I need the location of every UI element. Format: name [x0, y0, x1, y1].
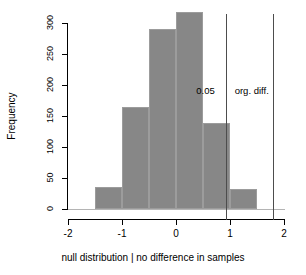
y-tick-label-wrap: 50 [40, 173, 60, 182]
y-tick-label-wrap: 100 [40, 142, 60, 151]
y-axis-line [67, 23, 68, 210]
x-tick-label: -2 [56, 228, 80, 239]
histogram-plot: 050100150200250300 -2-1012 0.05org. diff… [0, 0, 306, 275]
histogram-bar [122, 107, 149, 209]
y-tick-mark [62, 116, 67, 117]
y-tick-label-wrap: 0 [40, 204, 60, 213]
y-tick-label: 0 [46, 199, 55, 219]
x-tick-mark [176, 219, 177, 225]
observed-difference-line [273, 14, 274, 220]
x-tick-mark [68, 219, 69, 225]
y-tick-mark [62, 178, 67, 179]
y-tick-label: 100 [46, 137, 55, 157]
y-tick-label: 300 [46, 13, 55, 33]
y-axis-title-wrap: Frequency [5, 52, 19, 182]
y-tick-label: 50 [46, 168, 55, 188]
y-tick-label-wrap: 300 [40, 18, 60, 27]
y-tick-mark [62, 54, 67, 55]
x-tick-label: 0 [164, 228, 188, 239]
y-tick-mark [62, 85, 67, 86]
y-tick-mark [62, 23, 67, 24]
y-tick-mark [62, 209, 67, 210]
x-tick-label: -1 [110, 228, 134, 239]
x-tick-mark [122, 219, 123, 225]
y-tick-label-wrap: 200 [40, 80, 60, 89]
y-tick-label: 250 [46, 44, 55, 64]
y-tick-label: 150 [46, 106, 55, 126]
x-tick-label: 1 [218, 228, 242, 239]
significance-threshold-line [226, 14, 227, 220]
x-tick-label: 2 [272, 228, 296, 239]
histogram-bar [149, 29, 176, 209]
x-axis-title: null distribution | no difference in sam… [0, 252, 306, 264]
y-axis-title: Frequency [6, 51, 18, 181]
significance-threshold-label: 0.05 [196, 86, 215, 96]
y-tick-mark [62, 147, 67, 148]
plot-baseline [68, 209, 285, 210]
y-tick-label: 200 [46, 75, 55, 95]
x-tick-mark [284, 219, 285, 225]
y-tick-label-wrap: 250 [40, 49, 60, 58]
observed-difference-label: org. diff. [235, 86, 269, 96]
x-tick-mark [230, 219, 231, 225]
y-tick-label-wrap: 150 [40, 111, 60, 120]
histogram-bar [230, 189, 257, 209]
histogram-bar [95, 187, 122, 209]
histogram-bar [176, 12, 203, 209]
